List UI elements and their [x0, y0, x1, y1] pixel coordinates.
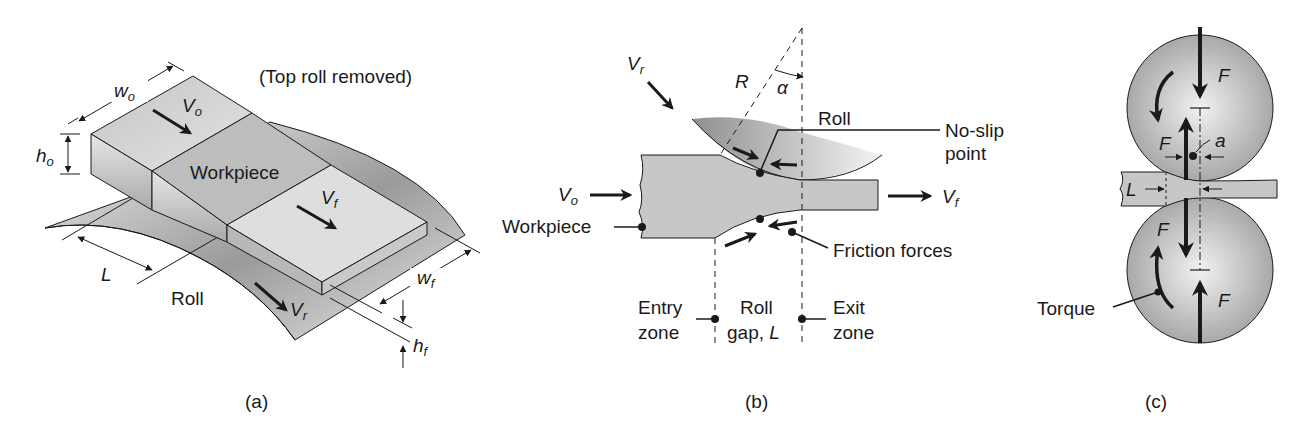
label-f-bottom: F — [1218, 290, 1231, 311]
panel-a: wo ho Vo Workpiece Vf (Top roll removed)… — [36, 62, 480, 412]
label-f-top: F — [1218, 65, 1231, 86]
label-friction-forces: Friction forces — [833, 240, 952, 261]
label-h-o: ho — [36, 145, 54, 169]
label-v-r-b: Vr — [627, 53, 645, 77]
label-f-mid-lower: F — [1157, 219, 1170, 240]
label-f-mid-upper: F — [1159, 133, 1172, 154]
rolling-diagram: wo ho Vo Workpiece Vf (Top roll removed)… — [0, 0, 1309, 433]
label-a: a — [1215, 130, 1226, 151]
label-l-c: L — [1126, 179, 1137, 200]
label-r: R — [735, 71, 749, 92]
label-torque: Torque — [1037, 298, 1095, 319]
label-roll-gap: Roll — [740, 297, 773, 318]
label-entry-zone: zone — [638, 322, 679, 343]
label-exit-zone: zone — [833, 322, 874, 343]
label-alpha: α — [777, 77, 789, 98]
label-gap: gap, L — [727, 322, 780, 343]
label-roll-b: Roll — [818, 108, 851, 129]
label-workpiece: Workpiece — [190, 162, 279, 183]
caption-c: (c) — [1145, 391, 1167, 412]
caption-a: (a) — [245, 391, 268, 412]
note-top-roll-removed: (Top roll removed) — [259, 66, 412, 87]
label-workpiece-b: Workpiece — [502, 216, 591, 237]
label-roll: Roll — [171, 288, 204, 309]
label-no-slip-point: point — [945, 143, 987, 164]
label-exit: Exit — [833, 297, 865, 318]
label-v-f-b: Vf — [942, 186, 960, 210]
label-no-slip: No-slip — [945, 120, 1004, 141]
label-l: L — [101, 264, 112, 285]
panel-b: R α Vr Roll No-slip point Friction force… — [502, 28, 1004, 412]
label-v-o-b: Vo — [558, 184, 578, 208]
caption-b: (b) — [745, 391, 768, 412]
panel-c: F F F F a L Torque (c) — [1037, 27, 1277, 412]
label-h-f: hf — [413, 335, 429, 359]
label-entry: Entry — [638, 297, 683, 318]
